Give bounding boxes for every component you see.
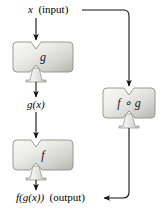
label-intermediate: g(x)	[27, 99, 45, 110]
machine-fg-label: f ∘ g	[103, 97, 155, 109]
label-output-symbol: f(g(x))	[16, 191, 44, 203]
function-composition-diagram: x (input) g(x) f(g(x)) (output) g f f ∘ …	[0, 0, 168, 214]
machine-g-label: g	[13, 51, 73, 63]
label-input-note: (input)	[38, 3, 68, 15]
label-intermediate-symbol: g(x)	[27, 98, 45, 110]
label-output-note: (output)	[50, 191, 85, 203]
edge-input-to-fg	[82, 10, 129, 86]
label-output: f(g(x)) (output)	[16, 192, 85, 203]
machine-f-label: f	[13, 149, 73, 161]
label-input: x (input)	[28, 4, 68, 15]
edge-fg-to-output	[104, 128, 129, 198]
